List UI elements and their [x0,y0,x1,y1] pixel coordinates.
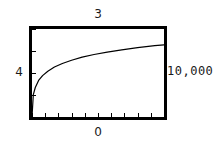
axis-label-right: 10,000 [167,64,213,78]
x-axis-tick [164,113,165,117]
data-curve [32,29,164,117]
x-axis-tick [58,113,59,117]
y-axis-tick [32,29,36,30]
plot-frame [29,26,167,120]
x-axis-tick [138,113,139,117]
axis-label-top: 3 [0,7,196,21]
x-axis-tick [72,113,73,117]
x-axis-tick [85,113,86,117]
y-axis-tick [32,73,36,74]
x-axis-tick [32,113,33,117]
chart-screenshot: 3 4 10,000 0 [0,0,224,146]
y-axis-tick [32,95,36,96]
plot-area [32,29,164,117]
x-axis-tick [45,113,46,117]
x-axis-tick [151,113,152,117]
axis-label-left: 4 [11,65,23,79]
x-axis-tick [124,113,125,117]
axis-label-bottom: 0 [0,125,196,139]
y-axis-tick [32,51,36,52]
x-axis-tick [111,113,112,117]
x-axis-tick [98,113,99,117]
